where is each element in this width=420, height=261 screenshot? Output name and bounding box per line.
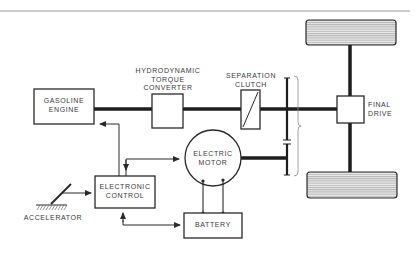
label-line: BATTERY — [184, 221, 242, 230]
signal-control-to-motor — [126, 159, 179, 176]
label-line: SEPARATION — [222, 72, 280, 81]
front-wheel — [306, 20, 396, 45]
label-line: CONVERTER — [127, 84, 209, 93]
torque-converter-label: HYDRODYNAMIC TORQUE CONVERTER — [127, 67, 209, 93]
rear-wheel — [307, 172, 397, 198]
label-line: TORQUE — [127, 76, 209, 85]
electric-motor-label: ELECTRIC MOTOR — [185, 150, 241, 167]
label-line: HYDRODYNAMIC — [127, 67, 209, 76]
label-line: MOTOR — [185, 159, 241, 168]
label-line: DRIVE — [368, 110, 398, 119]
separation-clutch-label: SEPARATION CLUTCH — [222, 72, 280, 89]
signal-control-to-battery — [123, 220, 180, 225]
final-drive-label: FINAL DRIVE — [368, 101, 398, 118]
accelerator-label: ACCELERATOR — [22, 214, 84, 223]
gasoline-engine-label: GASOLINE ENGINE — [34, 97, 94, 114]
label-line: CONTROL — [95, 192, 155, 201]
label-line: GASOLINE — [34, 97, 94, 106]
label-line: ACCELERATOR — [22, 214, 84, 223]
ground-hatch — [37, 205, 67, 210]
junction-dot — [221, 178, 224, 181]
label-line: FINAL — [368, 101, 398, 110]
battery-label: BATTERY — [184, 221, 242, 230]
junction-dot — [201, 179, 204, 182]
final-drive-box — [337, 96, 364, 123]
label-line: ELECTRIC — [185, 150, 241, 159]
torque-converter-box — [152, 94, 183, 128]
label-line: ELECTRONIC — [95, 183, 155, 192]
label-line: ENGINE — [34, 106, 94, 115]
signal-control-to-engine — [100, 124, 119, 176]
brace — [294, 76, 301, 176]
accelerator-pedal — [51, 184, 71, 204]
electronic-control-label: ELECTRONIC CONTROL — [95, 183, 155, 200]
label-line: CLUTCH — [222, 81, 280, 90]
